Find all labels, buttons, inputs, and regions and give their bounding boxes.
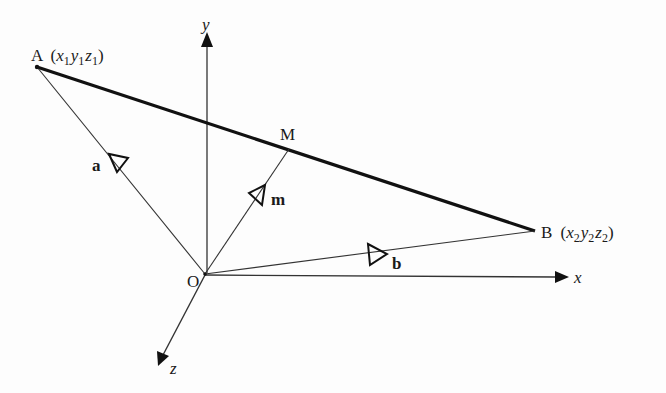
point-b-label: B (x2y2z2) — [541, 223, 614, 245]
point-a-marker — [35, 65, 39, 69]
vector-a-arrow-icon — [109, 154, 128, 172]
segment-ab — [37, 67, 535, 231]
x-axis-arrow-icon — [555, 271, 569, 283]
vector-m-label: m — [271, 190, 285, 209]
y-axis-arrow-icon — [201, 32, 213, 47]
point-m-label: M — [280, 125, 295, 144]
point-b-name: B — [541, 223, 552, 242]
vector-b-label: b — [392, 254, 401, 273]
svg-text:B (x2y2z2): B (x2y2z2) — [541, 223, 614, 245]
svg-text:A (x1y1z1): A (x1y1z1) — [31, 46, 104, 68]
vector-a: a — [37, 67, 205, 274]
z-axis-arrow-icon — [157, 351, 169, 366]
vector-a-label: a — [92, 156, 101, 175]
y-axis: y — [200, 15, 213, 273]
x-axis-label: x — [573, 268, 582, 287]
point-a-name: A — [31, 46, 44, 65]
origin-label: O — [187, 272, 199, 291]
vector-m: m — [205, 149, 289, 274]
vector-b-arrow-icon — [368, 244, 387, 265]
point-a-label: A (x1y1z1) — [31, 46, 104, 68]
y-axis-label: y — [200, 15, 210, 34]
vector-b: b — [205, 231, 535, 274]
diagram-svg: y x z a m — [0, 0, 666, 393]
origin-marker — [203, 272, 207, 276]
z-axis-label: z — [169, 359, 177, 378]
vector-diagram: y x z a m — [0, 0, 666, 393]
